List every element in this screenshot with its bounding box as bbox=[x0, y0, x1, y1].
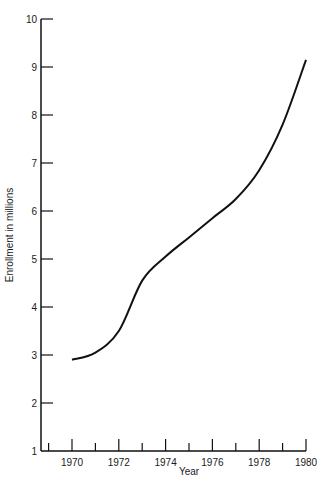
x-axis-title: Year bbox=[179, 466, 200, 477]
y-tick-label: 5 bbox=[31, 254, 37, 265]
y-tick-label: 10 bbox=[26, 14, 38, 25]
y-tick-label: 1 bbox=[31, 446, 37, 457]
y-tick-label: 4 bbox=[31, 302, 37, 313]
ticks: 12345678910197019721974197619781980 bbox=[26, 14, 318, 469]
y-tick-label: 9 bbox=[31, 62, 37, 73]
x-tick-label: 1974 bbox=[154, 457, 177, 468]
y-tick-label: 3 bbox=[31, 350, 37, 361]
y-tick-label: 7 bbox=[31, 158, 37, 169]
y-tick-label: 8 bbox=[31, 110, 37, 121]
y-axis-title: Enrollment in millions bbox=[4, 188, 15, 282]
x-tick-label: 1976 bbox=[201, 457, 224, 468]
x-tick-label: 1972 bbox=[108, 457, 131, 468]
x-tick-label: 1970 bbox=[61, 457, 84, 468]
x-tick-label: 1978 bbox=[248, 457, 271, 468]
enrollment-line-chart: 12345678910197019721974197619781980 Year… bbox=[0, 0, 328, 486]
x-tick-label: 1980 bbox=[295, 457, 318, 468]
axes bbox=[41, 19, 306, 451]
y-tick-label: 6 bbox=[31, 206, 37, 217]
enrollment-curve bbox=[72, 60, 306, 360]
y-tick-label: 2 bbox=[31, 398, 37, 409]
